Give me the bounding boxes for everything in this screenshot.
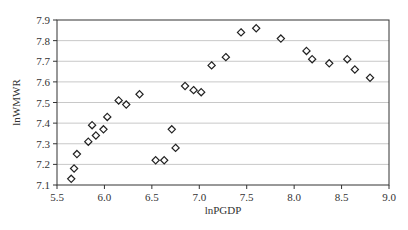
y-tick-label: 7.2: [36, 158, 50, 170]
data-point-diamond-icon: [152, 157, 159, 164]
y-tick-label: 7.8: [36, 35, 50, 47]
data-point-diamond-icon: [222, 54, 229, 61]
x-tick-label: 5.5: [50, 191, 64, 203]
y-tick-label: 7.3: [36, 138, 50, 150]
chart-canvas: 7.17.27.37.47.57.67.77.87.95.56.06.57.07…: [0, 0, 408, 230]
data-point-diamond-icon: [100, 126, 107, 133]
y-tick-label: 7.7: [36, 55, 50, 67]
data-point-diamond-icon: [208, 62, 215, 69]
data-point-diamond-icon: [68, 175, 75, 182]
data-point-diamond-icon: [190, 87, 197, 94]
y-tick-label: 7.4: [36, 117, 50, 129]
data-point-diamond-icon: [253, 25, 260, 32]
data-point-diamond-icon: [70, 165, 77, 172]
x-tick-label: 6.0: [98, 191, 112, 203]
y-tick-label: 7.1: [36, 179, 50, 191]
data-point-diamond-icon: [303, 47, 310, 54]
data-point-diamond-icon: [351, 66, 358, 73]
y-tick-label: 7.6: [36, 76, 50, 88]
y-tick-label: 7.5: [36, 97, 50, 109]
data-point-diamond-icon: [172, 144, 179, 151]
data-point-diamond-icon: [92, 132, 99, 139]
x-tick-label: 7.0: [192, 191, 206, 203]
x-tick-label: 7.5: [240, 191, 254, 203]
data-point-diamond-icon: [181, 82, 188, 89]
scatter-chart: 7.17.27.37.47.57.67.77.87.95.56.06.57.07…: [0, 0, 408, 230]
x-tick-label: 8.5: [335, 191, 349, 203]
data-point-diamond-icon: [198, 89, 205, 96]
data-point-diamond-icon: [366, 74, 373, 81]
x-tick-label: 6.5: [145, 191, 159, 203]
data-point-diamond-icon: [136, 91, 143, 98]
x-tick-label: 8.0: [287, 191, 301, 203]
x-axis-title: lnPGDP: [205, 204, 242, 216]
y-tick-label: 7.9: [36, 14, 50, 26]
data-point-diamond-icon: [104, 113, 111, 120]
data-point-diamond-icon: [168, 126, 175, 133]
y-axis-title: lnWMWR: [10, 79, 22, 126]
data-point-diamond-icon: [161, 157, 168, 164]
data-point-diamond-icon: [73, 150, 80, 157]
data-point-diamond-icon: [237, 29, 244, 36]
x-tick-label: 9.0: [382, 191, 396, 203]
